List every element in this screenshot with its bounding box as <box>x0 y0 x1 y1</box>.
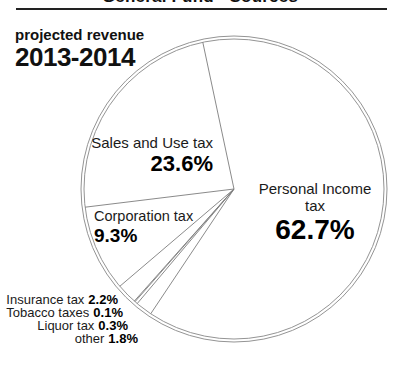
callout-sales-and-use-tax: Sales and Use tax 23.6% <box>91 134 213 175</box>
callout-corporation-tax: Corporation tax 9.3% <box>94 208 193 245</box>
callout-other: other1.8% <box>75 332 138 345</box>
slice-boundary-other <box>137 189 234 304</box>
slice-label: Sales and Use tax <box>91 134 213 151</box>
slice-boundary-corporation-tax <box>85 189 234 207</box>
slice-percent: 23.6% <box>91 153 213 175</box>
pie-chart-page: General Fund - Sources projected revenue… <box>0 0 400 369</box>
slice-label: Personal Income tax <box>253 180 377 214</box>
slice-label: other <box>75 331 105 346</box>
slice-percent: 9.3% <box>94 226 193 245</box>
slice-percent: 1.8% <box>108 331 138 346</box>
slice-label: Corporation tax <box>94 208 193 224</box>
callout-personal-income-tax: Personal Income tax 62.7% <box>253 180 377 244</box>
slice-percent: 62.7% <box>253 216 377 244</box>
